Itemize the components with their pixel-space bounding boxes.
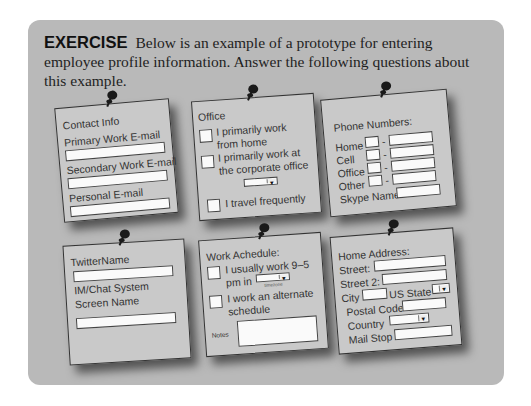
street2-field[interactable] (382, 269, 448, 285)
office-card: Office I primarily work from home I prim… (191, 93, 322, 221)
timezone-hint: timezone (264, 282, 283, 288)
city-label: City (341, 291, 360, 305)
home-area-code-field[interactable] (365, 136, 380, 148)
phone-numbers-title: Phone Numbers: (333, 115, 413, 135)
us-state-dropdown[interactable]: ▼ (432, 283, 451, 294)
phone-separator: - (385, 174, 390, 187)
postal-code-field[interactable] (402, 297, 447, 311)
country-dropdown[interactable]: ▼ (389, 312, 430, 325)
phone-separator: - (381, 135, 386, 148)
usual-hours-label-2: pm in (226, 275, 253, 290)
alternate-schedule-label-1: I work an alternate (227, 287, 314, 306)
chevron-down-icon: ▼ (279, 274, 288, 279)
pushpin-icon (383, 219, 401, 240)
home-address-card: Home Address: Street: Street 2: City US … (330, 227, 463, 354)
work-schedule-card: Work Achedule: I usually work 9–5 pm in … (198, 232, 329, 357)
office-area-code-field[interactable] (367, 162, 382, 174)
notes-textarea[interactable] (237, 315, 319, 347)
notes-label: Notes (211, 328, 229, 342)
pushpin-icon (376, 80, 394, 101)
chevron-down-icon: ▼ (418, 315, 427, 322)
timezone-dropdown[interactable]: ▼ (256, 272, 290, 282)
social-card: TwitterName IM/Chat System Screen Name (62, 238, 191, 365)
work-from-home-checkbox[interactable] (199, 129, 213, 143)
pushpin-icon (102, 90, 120, 111)
street-label: Street: (339, 262, 371, 277)
chevron-down-icon: ▼ (267, 179, 276, 184)
mail-stop-field[interactable] (394, 325, 453, 341)
phone-separator: - (384, 161, 389, 174)
twitter-name-label: TwitterName (70, 253, 130, 270)
home-phone-label: Home (335, 139, 364, 154)
skype-name-field[interactable] (396, 184, 441, 199)
contact-info-card: Contact Info Primary Work E-mail Seconda… (54, 98, 179, 223)
exercise-label: EXERCISE (44, 33, 127, 51)
phone-numbers-card: Phone Numbers: Home - Cell - Office - Ot… (320, 89, 457, 218)
phone-separator: - (383, 148, 388, 161)
exercise-instructions: EXERCISEBelow is an example of a prototy… (44, 33, 484, 90)
work-at-office-checkbox[interactable] (201, 155, 215, 169)
alternate-schedule-checkbox[interactable] (209, 295, 223, 309)
chevron-down-icon: ▼ (439, 285, 448, 292)
other-number-field[interactable] (392, 170, 437, 185)
office-title: Office (198, 109, 226, 124)
city-field[interactable] (362, 288, 388, 301)
contact-info-title: Contact Info (62, 115, 120, 133)
mail-stop-label: Mail Stop (348, 330, 393, 346)
pushpin-icon (243, 84, 260, 105)
pushpin-icon (254, 222, 271, 243)
usual-hours-checkbox[interactable] (207, 266, 221, 280)
travel-frequently-checkbox[interactable] (207, 199, 221, 213)
other-area-code-field[interactable] (368, 175, 383, 187)
alternate-schedule-label-2: schedule (228, 303, 271, 319)
travel-frequently-label: I travel frequently (225, 192, 306, 211)
pushpin-icon (115, 229, 132, 250)
screen-name-field[interactable] (76, 312, 176, 329)
screen-name-label: Screen Name (75, 294, 140, 311)
cell-area-code-field[interactable] (366, 149, 381, 161)
office-location-dropdown[interactable]: ▼ (244, 177, 278, 187)
